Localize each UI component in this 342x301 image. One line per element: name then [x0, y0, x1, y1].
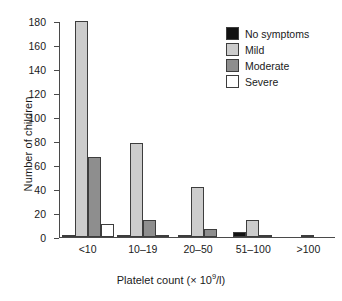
y-axis-tick: 100	[54, 118, 59, 119]
bar	[75, 21, 88, 237]
bar-chart: Number of children 020406080100120140160…	[0, 0, 342, 301]
bar-group	[170, 22, 225, 237]
bar	[156, 235, 169, 237]
y-axis-tick: 20	[54, 214, 59, 215]
bar	[191, 187, 204, 237]
legend-swatch	[226, 59, 239, 72]
bar-group	[115, 22, 170, 237]
y-axis-tick-label: 140	[28, 64, 46, 76]
y-axis-tick: 40	[54, 190, 59, 191]
bar	[233, 232, 246, 237]
y-axis-tick-label: 20	[34, 208, 46, 220]
y-axis-tick: 180	[54, 22, 59, 23]
x-axis-title: Platelet count (× 109/l)	[0, 272, 342, 286]
y-axis-tick: 160	[54, 46, 59, 47]
x-axis-tick-label: 51–100	[226, 243, 281, 255]
x-axis-tick-label: 20–50	[170, 243, 225, 255]
bar	[101, 224, 114, 237]
x-axis-title-post: /l)	[216, 274, 225, 286]
x-axis-tick-label: 10–19	[115, 243, 170, 255]
bar	[301, 235, 314, 237]
x-axis-tick-labels: <1010–1920–5051–100>100	[60, 243, 336, 255]
bar	[130, 143, 143, 237]
y-axis-tick-label: 80	[34, 136, 46, 148]
legend-item[interactable]: No symptoms	[226, 26, 309, 41]
y-axis-tick-label: 0	[40, 232, 46, 244]
bar	[259, 235, 272, 237]
y-axis-tick: 120	[54, 94, 59, 95]
y-axis-tick-label: 160	[28, 40, 46, 52]
bar	[246, 220, 259, 237]
x-axis-line	[59, 237, 335, 238]
legend-swatch	[226, 75, 239, 88]
x-axis-title-pre: Platelet count (× 10	[117, 274, 212, 286]
y-axis-tick-label: 60	[34, 160, 46, 172]
y-axis-tick-label: 120	[28, 88, 46, 100]
bar	[117, 235, 130, 237]
legend-label: Severe	[245, 76, 278, 88]
legend-item[interactable]: Moderate	[226, 58, 309, 73]
y-axis-tick-label: 180	[28, 16, 46, 28]
legend-item[interactable]: Mild	[226, 42, 309, 57]
legend-label: Moderate	[245, 60, 289, 72]
bar	[88, 157, 101, 237]
legend: No symptomsMildModerateSevere	[226, 26, 309, 89]
x-axis-tick-label: <10	[60, 243, 115, 255]
legend-label: Mild	[245, 44, 264, 56]
bar	[204, 229, 217, 237]
legend-label: No symptoms	[245, 28, 309, 40]
bar	[143, 220, 156, 237]
legend-swatch	[226, 27, 239, 40]
legend-item[interactable]: Severe	[226, 74, 309, 89]
bar	[178, 235, 191, 237]
y-axis-tick: 140	[54, 70, 59, 71]
y-axis-tick-label: 40	[34, 184, 46, 196]
bar	[62, 235, 75, 237]
y-axis-tick-label: 100	[28, 112, 46, 124]
x-axis-tick-label: >100	[281, 243, 336, 255]
y-axis-tick: 80	[54, 142, 59, 143]
y-axis-tick: 60	[54, 166, 59, 167]
bar-group	[60, 22, 115, 237]
legend-swatch	[226, 43, 239, 56]
y-axis-tick: 0	[54, 238, 59, 239]
